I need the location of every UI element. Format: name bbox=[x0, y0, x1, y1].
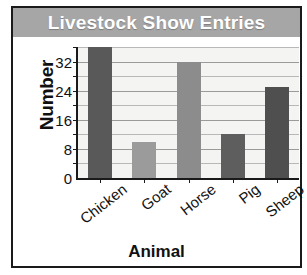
y-axis-tick-mark bbox=[73, 134, 78, 135]
bar-series bbox=[78, 47, 299, 178]
y-axis-tick-mark bbox=[73, 149, 78, 150]
bar-horse bbox=[177, 62, 201, 178]
bar-slot bbox=[166, 47, 210, 178]
bar-pig bbox=[221, 134, 245, 178]
x-axis-tick-label: Goat bbox=[139, 181, 174, 213]
bar-slot bbox=[255, 47, 299, 178]
x-axis-tick-labels: ChickenGoatHorsePigSheep bbox=[76, 181, 297, 237]
y-axis-tick-mark bbox=[73, 163, 78, 164]
chart-title: Livestock Show Entries bbox=[48, 12, 266, 34]
chart-title-banner: Livestock Show Entries bbox=[13, 8, 300, 37]
y-axis-tick-label: 24 bbox=[55, 83, 72, 98]
y-axis-tick-mark bbox=[73, 76, 78, 77]
y-axis-tick-labels: 08162432 bbox=[44, 47, 72, 178]
y-axis-tick-label: 16 bbox=[55, 112, 72, 127]
y-axis-tick-mark bbox=[73, 47, 78, 48]
bar-slot bbox=[78, 47, 122, 178]
chart-page: Livestock Show Entries Number 08162432 C… bbox=[0, 0, 307, 275]
plot-area bbox=[76, 47, 299, 180]
y-axis-tick-mark bbox=[73, 62, 78, 63]
y-axis-tick-label: 0 bbox=[64, 171, 72, 186]
bar-sheep bbox=[265, 87, 289, 178]
y-axis-tick-label: 32 bbox=[55, 54, 72, 69]
x-axis-title: Animal bbox=[13, 242, 300, 262]
bar-goat bbox=[132, 142, 156, 178]
y-axis-tick-mark bbox=[73, 120, 78, 121]
bar-chicken bbox=[88, 47, 112, 178]
x-axis-tick-label: Horse bbox=[177, 181, 218, 217]
x-axis-tick-label: Chicken bbox=[77, 181, 129, 226]
y-axis-tick-mark bbox=[73, 105, 78, 106]
y-axis-tick-mark bbox=[73, 91, 78, 92]
bar-slot bbox=[211, 47, 255, 178]
bar-slot bbox=[122, 47, 166, 178]
y-axis-tick-label: 8 bbox=[64, 141, 72, 156]
x-axis-tick-label: Pig bbox=[236, 181, 262, 206]
